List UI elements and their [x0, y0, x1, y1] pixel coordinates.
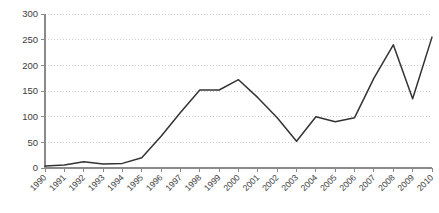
y-tick-label: 50 — [27, 137, 38, 148]
chart-canvas: 050100150200250300 199019911992199319941… — [0, 0, 439, 213]
y-tick-label: 200 — [22, 60, 38, 71]
y-tick-label: 300 — [22, 8, 38, 19]
y-tick-label: 100 — [22, 111, 38, 122]
x-axis-ticks — [45, 168, 432, 172]
y-tick-label: 0 — [33, 162, 38, 173]
y-tick-label: 250 — [22, 34, 38, 45]
line-chart: 050100150200250300 199019911992199319941… — [0, 0, 439, 213]
y-tick-label: 150 — [22, 85, 38, 96]
